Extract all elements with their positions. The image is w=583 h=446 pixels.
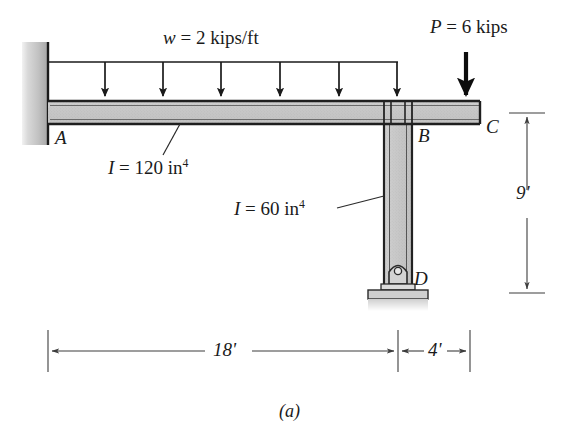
figure-canvas: w = 2 kips/ft P = 6 kips A B C D I = 120… <box>0 0 583 446</box>
point-load-label: P = 6 kips <box>430 17 508 36</box>
column-inertia-label: I = 60 in4 <box>234 199 305 218</box>
point-load-value: = 6 kips <box>442 16 508 37</box>
point-load-symbol: P <box>430 16 442 37</box>
joint-label-b: B <box>418 126 430 145</box>
beam-inertia-exponent: 4 <box>183 157 189 170</box>
beam-inertia-value: = 120 in <box>114 157 182 178</box>
column-inertia-value: = 60 in <box>240 198 299 219</box>
leader-lines <box>163 124 384 208</box>
figure-caption: (a) <box>279 402 300 420</box>
joint-label-a: A <box>55 128 67 147</box>
beam-inertia-label: I = 120 in4 <box>108 158 188 177</box>
distributed-load-label: w = 2 kips/ft <box>163 28 259 47</box>
joint-label-d: D <box>414 269 428 288</box>
column-inertia-exponent: 4 <box>299 198 305 211</box>
wall-support <box>22 42 48 145</box>
distributed-load <box>48 62 398 96</box>
dimension-label-9ft: 9' <box>516 183 530 202</box>
column-member-bd <box>384 104 412 284</box>
dimension-label-18ft: 18' <box>213 340 236 359</box>
dimension-label-4ft: 4' <box>428 340 442 359</box>
dimension-height-9ft <box>509 113 545 293</box>
frame-diagram-svg <box>0 0 583 446</box>
beam-member-ac <box>48 101 480 124</box>
distributed-load-value: = 2 kips/ft <box>176 27 259 48</box>
joint-label-c: C <box>486 117 499 136</box>
distributed-load-symbol: w <box>163 27 176 48</box>
